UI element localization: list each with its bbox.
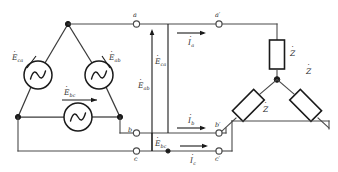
terminal-a-prime[interactable] [216, 21, 222, 27]
ac-source-bc [64, 103, 92, 131]
wire-neutral-to-impedance-c [277, 80, 294, 95]
impedance-c-box [290, 89, 322, 121]
current-a-dot-accent: · [189, 33, 191, 41]
source-bc-arrow-head [91, 98, 97, 103]
impedance-c-group [290, 89, 322, 121]
impedance-b-box [232, 89, 264, 121]
terminal-c-prime-label: c′ [215, 155, 221, 163]
delta-leg-ab-lower [106, 87, 120, 117]
transmission-lines [140, 24, 216, 151]
terminal-a-prime-label: a′ [215, 11, 221, 19]
source-ab-dot-accent: · [111, 48, 113, 56]
terminal-b-label: b [128, 126, 132, 134]
impedance-c-dot-accent: · [307, 61, 309, 69]
source-ca-dot-accent: · [14, 48, 16, 56]
impedance-b-group [232, 89, 264, 121]
delta-leg-ab-upper [68, 24, 92, 63]
terminal-b[interactable] [133, 130, 139, 136]
terminal-c-prime[interactable] [216, 148, 222, 154]
source-bc-dot-accent: · [66, 83, 68, 91]
voltage-ca-dot-accent: · [157, 52, 159, 60]
terminal-b-prime[interactable] [216, 130, 222, 136]
current-b-arrow-head [200, 126, 206, 131]
wire-impedance-c-to-bus [318, 118, 329, 128]
current-c-arrow-head [202, 144, 208, 149]
terminal-c[interactable] [133, 148, 139, 154]
circuit-diagram: Eca · Eab · Ebc · [0, 0, 338, 172]
voltage-phasors: Eca · Eab · Ebc · [137, 24, 170, 153]
terminal-a-label: a [133, 11, 137, 19]
wire-neutral-to-impedance-b [260, 80, 277, 95]
terminal-c-label: c [134, 155, 138, 163]
delta-leg-ca-upper [45, 24, 68, 63]
impedance-b-dot-accent: · [264, 99, 266, 107]
wye-load-network: Z · Z · Z · [222, 24, 329, 151]
delta-source-network: Eca · Eab · Ebc · [11, 21, 123, 131]
current-b-dot-accent: · [189, 111, 191, 119]
impedance-a-dot-accent: · [291, 43, 293, 51]
line-currents: Ia · Ib · Ic · [177, 31, 208, 166]
delta-leg-ca-lower [18, 87, 31, 117]
terminal-a[interactable] [133, 21, 139, 27]
voltage-bc-dot-accent: · [157, 134, 159, 142]
voltage-bc-junction-dot [166, 149, 170, 153]
ac-source-ca [24, 61, 52, 89]
wire-impedance-b-to-bus [222, 118, 236, 131]
impedance-a-box [270, 40, 285, 69]
current-a-arrow-head [200, 31, 206, 36]
voltage-ab-dot-accent: · [140, 76, 142, 84]
terminal-b-prime-label: b′ [215, 121, 221, 129]
voltage-ca-arrow-head [150, 29, 155, 35]
current-c-dot-accent: · [191, 151, 193, 159]
ac-source-ab [85, 61, 113, 89]
circuit-svg: Eca · Eab · Ebc · [0, 0, 338, 172]
load-side-terminals: a′ b′ c′ [215, 11, 222, 163]
